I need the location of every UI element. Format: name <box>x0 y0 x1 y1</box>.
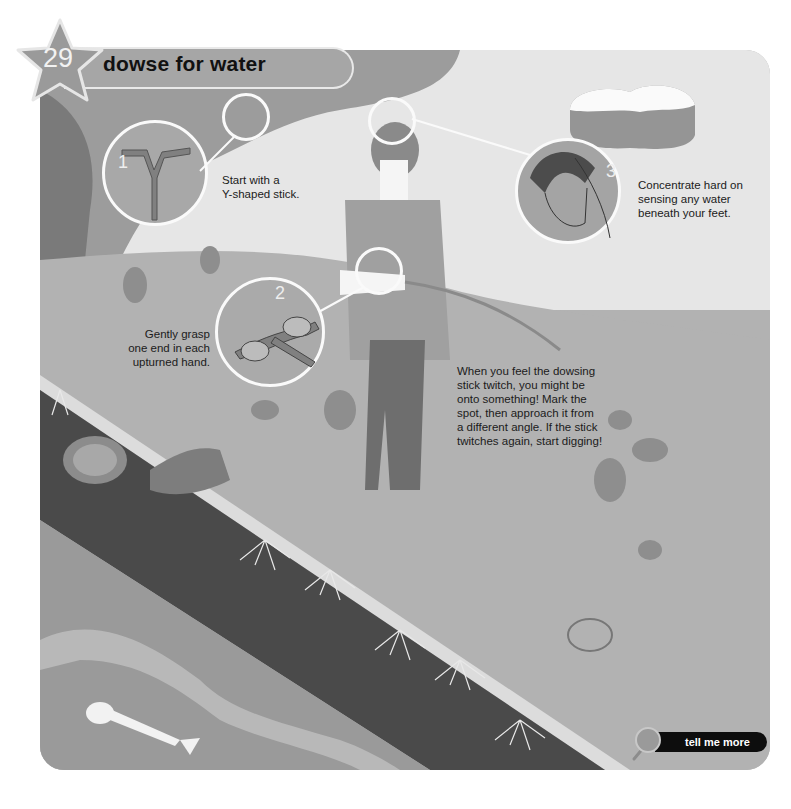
step-3-number: 3 <box>606 161 616 182</box>
step-2-number: 2 <box>275 283 285 304</box>
hands-holding-stick-icon <box>215 277 325 387</box>
page-title: dowse for water <box>103 52 266 76</box>
zoom-marker-tree <box>222 93 270 141</box>
y-stick-icon <box>102 120 208 226</box>
step-3-text: Concentrate hard on sensing any water be… <box>638 178 743 220</box>
main-instructions: When you feel the dowsing stick twitch, … <box>457 364 602 448</box>
step-1-text: Start with a Y-shaped stick. <box>222 173 300 201</box>
activity-number: 29 <box>26 43 90 74</box>
step-1-number: 1 <box>118 152 128 173</box>
zoom-marker-head <box>368 97 416 145</box>
step-2-text: Gently grasp one end in each upturned ha… <box>118 327 210 369</box>
magnifier-icon[interactable] <box>626 725 662 765</box>
tell-me-more-button[interactable]: tell me more <box>655 732 767 752</box>
concentrating-person-icon <box>515 138 621 244</box>
